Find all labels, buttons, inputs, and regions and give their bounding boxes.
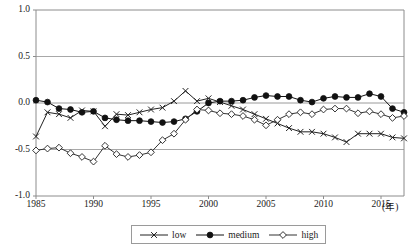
data-point-marker	[160, 120, 166, 126]
data-point-marker	[125, 118, 131, 124]
legend-marker-open-diamond	[268, 229, 298, 241]
x-axis-tick-label: 2010	[304, 199, 344, 209]
legend-label: low	[172, 230, 186, 240]
x-axis-unit-label: (年)	[382, 199, 418, 213]
data-point-marker	[148, 119, 154, 125]
chart-container: 1.00.50.0-0.5-1.019851990199520002005201…	[0, 0, 418, 250]
legend-marker-filled-circle	[195, 229, 225, 241]
data-point-marker	[102, 115, 108, 121]
data-point-marker	[171, 119, 177, 125]
legend-marker-x-cross	[139, 229, 169, 241]
data-point-marker	[344, 95, 350, 101]
data-point-marker	[45, 99, 51, 105]
data-point-marker	[286, 94, 292, 100]
data-point-marker	[263, 93, 269, 99]
data-point-marker	[252, 95, 258, 101]
y-axis-tick-label: 0.5	[0, 51, 30, 61]
legend-label: medium	[228, 230, 259, 240]
data-point-marker	[91, 108, 97, 114]
x-axis-tick-label: 2000	[189, 199, 229, 209]
y-axis-tick-label: 0.0	[0, 97, 30, 107]
legend-item-medium[interactable]: medium	[195, 229, 259, 241]
legend-label: high	[301, 230, 318, 240]
x-axis-tick-label: 1990	[74, 199, 114, 209]
data-point-marker	[114, 117, 120, 123]
data-point-marker	[298, 97, 304, 103]
data-point-marker	[240, 97, 246, 103]
data-point-marker	[137, 118, 143, 124]
x-axis-tick-label: 1985	[16, 199, 56, 209]
data-point-marker	[390, 106, 396, 112]
data-point-marker	[378, 94, 384, 100]
x-axis-tick-label: 2005	[246, 199, 286, 209]
legend-item-high[interactable]: high	[268, 229, 318, 241]
chart-plot-area	[0, 0, 418, 250]
data-point-marker	[280, 231, 287, 238]
data-point-marker	[56, 106, 62, 112]
data-point-marker	[206, 100, 212, 106]
data-point-marker	[207, 232, 213, 238]
y-axis-tick-label: -0.5	[0, 144, 30, 154]
data-point-marker	[275, 94, 281, 100]
data-point-marker	[355, 95, 361, 101]
data-point-marker	[229, 98, 235, 104]
chart-legend: lowmediumhigh	[131, 225, 326, 244]
legend-item-low[interactable]: low	[139, 229, 186, 241]
data-point-marker	[33, 97, 39, 103]
data-point-marker	[367, 91, 373, 97]
x-axis-tick-label: 1995	[131, 199, 171, 209]
data-point-marker	[309, 99, 315, 105]
data-point-marker	[68, 107, 74, 113]
data-point-marker	[79, 109, 85, 115]
data-point-marker	[321, 95, 327, 101]
data-point-marker	[332, 94, 338, 100]
data-point-marker	[217, 98, 223, 104]
y-axis-tick-label: 1.0	[0, 4, 30, 14]
